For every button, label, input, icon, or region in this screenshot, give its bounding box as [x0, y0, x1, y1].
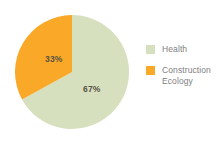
pie-chart-svg: [15, 15, 129, 129]
legend-swatch-construction-ecology-icon: [146, 66, 155, 75]
legend-item-construction-ecology[interactable]: Construction Ecology: [146, 65, 218, 87]
legend-swatch-health-icon: [146, 45, 155, 54]
pie-chart-figure: 33% 67% Health Construction Ecology: [0, 0, 219, 148]
legend-label-health: Health: [162, 44, 187, 55]
legend-label-construction-ecology: Construction Ecology: [162, 65, 218, 87]
legend-item-health[interactable]: Health: [146, 44, 218, 55]
pie-slice-label-construction-ecology: 33%: [45, 54, 63, 64]
pie-chart-plot-area: 33% 67%: [15, 15, 129, 129]
chart-legend: Health Construction Ecology: [146, 44, 218, 97]
pie-slice-label-health: 67%: [83, 84, 101, 94]
